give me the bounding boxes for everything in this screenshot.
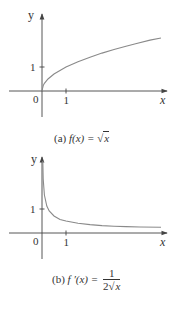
graph-b-caption-prefix: (b) bbox=[52, 273, 68, 285]
graph-a-y-label: y bbox=[28, 8, 34, 22]
graph-a: y x 0 1 1 bbox=[9, 8, 167, 117]
graph-b-y-label: y bbox=[31, 152, 37, 166]
graph-b-x-tick-label: 1 bbox=[64, 236, 70, 248]
graph-b-x-label: x bbox=[159, 235, 166, 249]
fraction-denominator: 2√x bbox=[103, 280, 120, 293]
graph-a-caption-prefix: (a) bbox=[54, 132, 69, 144]
graph-b: y x 0 1 1 bbox=[9, 152, 167, 259]
graph-b-curve bbox=[43, 161, 161, 227]
graph-b-y-tick-label: 1 bbox=[30, 203, 36, 215]
graph-b-caption: (b) f ′(x) = 12√x bbox=[52, 267, 120, 293]
graph-a-curve bbox=[42, 38, 161, 91]
graph-a-y-tick-label: 1 bbox=[30, 61, 36, 73]
graph-a-caption-func: f(x) = bbox=[69, 132, 97, 144]
denominator-radicand: x bbox=[114, 279, 120, 292]
graph-b-origin-label: 0 bbox=[33, 235, 39, 247]
figure-canvas: y x 0 1 1 y x 0 1 1 bbox=[0, 0, 180, 309]
graph-a-x-tick-label: 1 bbox=[64, 94, 70, 106]
graph-a-caption-radicand: x bbox=[103, 131, 109, 144]
graph-b-caption-func: f ′(x) = bbox=[68, 273, 101, 285]
graph-a-caption: (a) f(x) = √x bbox=[54, 132, 109, 144]
graph-a-x-label: x bbox=[159, 93, 166, 107]
graph-a-origin-label: 0 bbox=[33, 93, 39, 105]
graph-b-caption-fraction: 12√x bbox=[103, 267, 120, 293]
